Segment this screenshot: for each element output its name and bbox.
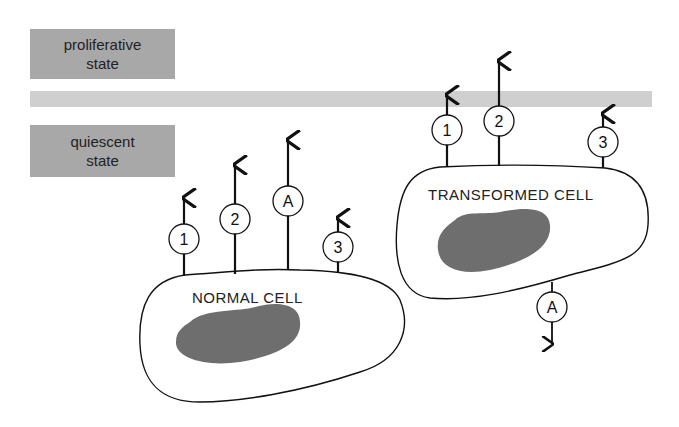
svg-text:1: 1 [180,231,189,248]
transformed-cell-label: TRANSFORMED CELL [428,186,594,203]
transformed-receptor-2: 2 [484,61,514,166]
cell-diagram: NORMAL CELL 1 2 A 3 TRANSFORMED CEL [0,0,679,427]
svg-text:3: 3 [334,239,343,256]
transformed-receptor-3: 3 [588,114,618,168]
normal-cell: NORMAL CELL 1 2 A 3 [140,140,405,402]
transformed-cell: TRANSFORMED CELL 1 2 3 A [396,61,648,344]
normal-receptor-1: 1 [169,198,199,276]
normal-receptor-2: 2 [220,165,250,274]
svg-text:A: A [547,299,558,316]
transformed-receptor-1: 1 [432,95,462,167]
transformed-receptor-A: A [537,282,567,344]
svg-text:A: A [283,193,294,210]
normal-receptor-3: 3 [323,218,353,273]
svg-text:3: 3 [599,134,608,151]
svg-text:2: 2 [231,211,240,228]
normal-cell-label: NORMAL CELL [192,289,303,306]
svg-text:2: 2 [495,113,504,130]
svg-text:1: 1 [443,122,452,139]
normal-receptor-A: A [273,140,303,270]
